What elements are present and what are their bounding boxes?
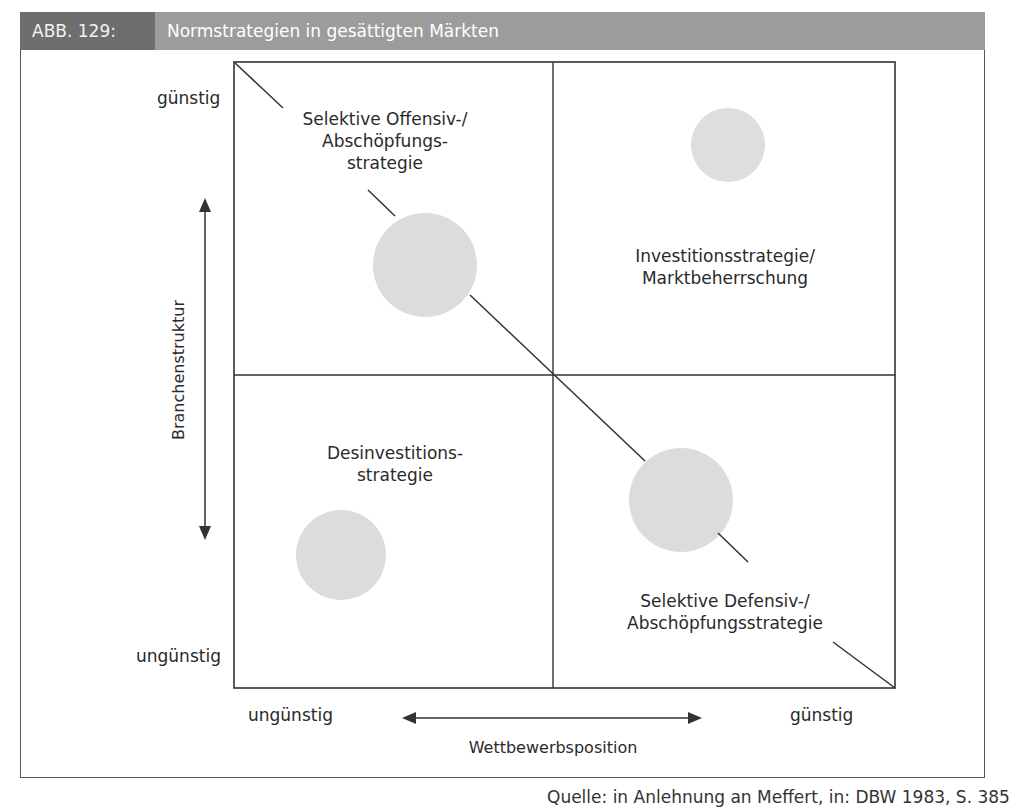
x-axis-title: Wettbewerbsposition [469, 738, 638, 757]
quadrant-label-top-right: Investitionsstrategie/ Marktbeherrschung [575, 245, 875, 289]
source-citation: Quelle: in Anlehnung an Meffert, in: DBW… [547, 787, 1010, 807]
circle-top-right [691, 108, 765, 182]
y-axis-arrow [199, 198, 211, 540]
x-axis-high-label: günstig [790, 705, 853, 725]
x-axis-low-label: ungünstig [248, 705, 333, 725]
y-axis-title: Branchenstruktur [169, 300, 188, 440]
y-axis-low-label: ungünstig [136, 646, 221, 666]
y-axis-high-label: günstig [157, 88, 220, 108]
quadrant-label-top-left: Selektive Offensiv-/ Abschöpfungs- strat… [255, 108, 515, 174]
quadrant-label-bottom-left: Desinvestitions- strategie [265, 442, 525, 486]
x-axis-arrow [402, 712, 702, 724]
circle-bottom-right [629, 448, 733, 552]
circle-top-left [373, 213, 477, 317]
circle-bottom-left [296, 510, 386, 600]
quadrant-label-bottom-right: Selektive Defensiv-/ Abschöpfungsstrateg… [575, 590, 875, 634]
